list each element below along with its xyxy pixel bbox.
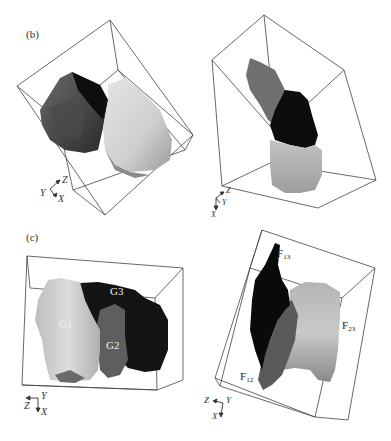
axis-label-z: Z	[226, 187, 230, 195]
axis-label-x: X	[211, 211, 216, 219]
axis-label-y: Y	[222, 199, 226, 207]
axis-triad-b-right	[190, 0, 391, 220]
axis-label-z: Z	[204, 396, 209, 405]
panel-b-right-view: Z Y X	[190, 0, 391, 220]
axis-triad-c-right	[190, 220, 391, 441]
axis-label-z: Z	[24, 401, 30, 411]
axis-triad-b-left	[0, 0, 200, 220]
axis-label-x: X	[212, 412, 218, 421]
axis-label-y: Y	[226, 396, 231, 405]
axis-triad-c-left	[0, 220, 200, 441]
axis-label-z: Z	[62, 175, 68, 185]
panel-c-left-view: G1 G2 G3 Z Y X	[0, 220, 200, 441]
panel-c-right-view: F13 F23 F12 Z Y X	[190, 220, 391, 441]
axis-label-y: Y	[40, 188, 46, 198]
panel-c: (c)	[0, 220, 391, 441]
axis-label-x: X	[58, 194, 64, 204]
axis-label-y: Y	[41, 391, 47, 401]
panel-b: (b)	[0, 0, 391, 220]
panel-b-left-view: Z Y X	[0, 0, 200, 220]
axis-label-x: X	[41, 407, 47, 417]
